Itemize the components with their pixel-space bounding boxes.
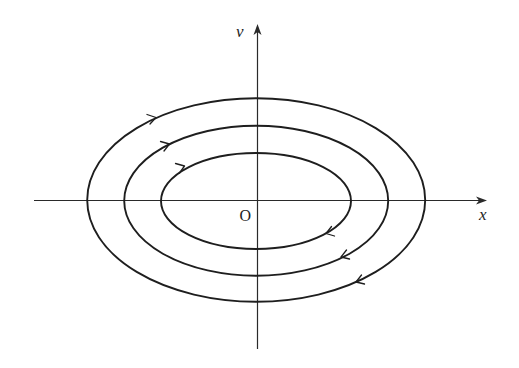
x-axis-label: x [478, 205, 487, 224]
origin-label: O [240, 207, 252, 224]
labels: v x O [236, 22, 487, 224]
phase-portrait-canvas: v x O [0, 0, 519, 368]
arrow-inner-upper-icon [176, 164, 185, 174]
phase-portrait-figure: v x O [0, 0, 519, 368]
v-axis-label: v [236, 22, 244, 41]
axes [34, 24, 487, 349]
